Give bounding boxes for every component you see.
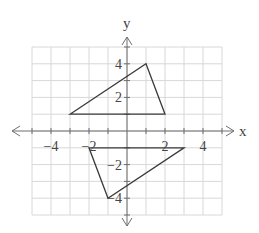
- x-tick-label: −2: [82, 139, 97, 154]
- y-tick-label: −2: [107, 158, 122, 173]
- axes: [12, 37, 234, 226]
- y-tick-label: 2: [115, 90, 122, 105]
- x-tick-label: 4: [200, 139, 207, 154]
- coordinate-plane: −4−22442−2−4 x y: [0, 0, 259, 233]
- x-axis-label: x: [239, 123, 247, 139]
- y-tick-label: 4: [115, 57, 122, 72]
- x-tick-label: 2: [162, 139, 169, 154]
- y-axis-label: y: [123, 15, 131, 31]
- y-tick-label: −4: [107, 191, 122, 206]
- triangle-lower: [89, 148, 184, 198]
- x-tick-label: −4: [44, 139, 59, 154]
